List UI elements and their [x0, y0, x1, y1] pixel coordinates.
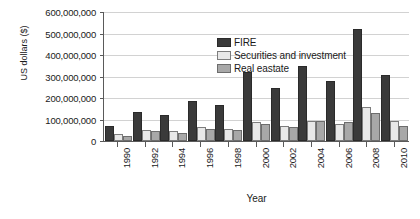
legend-item: Real eastate [217, 62, 346, 74]
bar [224, 129, 233, 141]
y-axis-tick-label: 0 [91, 136, 96, 147]
bar-group [270, 12, 298, 141]
bar [271, 88, 280, 141]
y-axis-tick-label: 300,000,000 [45, 71, 96, 82]
legend-swatch-icon [217, 51, 231, 60]
x-axis-tick-label: 1994 [176, 148, 187, 168]
bar [151, 131, 160, 141]
x-axis-tick-label: 1998 [232, 148, 243, 168]
x-axis-tick-mark [394, 142, 395, 147]
bar [371, 113, 380, 141]
x-axis-tick-mark [311, 142, 312, 147]
bar [105, 126, 114, 141]
x-axis-tick-mark [283, 142, 284, 147]
x-axis-tick-labels: 1990199219941996199820002002200420062008… [103, 148, 410, 190]
y-axis-tick-label: 600,000,000 [45, 7, 96, 18]
x-axis-tick-mark [172, 142, 173, 147]
x-axis-tick-mark [228, 142, 229, 147]
bar [188, 101, 197, 141]
bar-chart-figure: US dollars ($) 0100,000,000200,000,00030… [0, 0, 420, 219]
x-axis-tick-mark [117, 142, 118, 147]
bar [142, 130, 151, 141]
bar [289, 127, 298, 141]
bar [261, 124, 270, 141]
legend-swatch-icon [217, 38, 231, 47]
bar-group [353, 12, 381, 141]
bar [169, 131, 178, 141]
x-axis-tick-mark [145, 142, 146, 147]
bar [160, 115, 169, 141]
bar-group [133, 12, 161, 141]
x-axis-tick-label: 1996 [204, 148, 215, 168]
bar-group [160, 12, 188, 141]
bar [243, 72, 252, 141]
x-axis-tick-label: 2004 [315, 148, 326, 168]
bar-group [298, 12, 326, 141]
bar-group [325, 12, 353, 141]
legend-label: FIRE [234, 37, 256, 48]
bar-group [243, 12, 271, 141]
bar [133, 112, 142, 141]
x-axis-title: Year [103, 193, 410, 204]
legend-item: FIRE [217, 36, 346, 48]
legend-item: Securities and investment [217, 49, 346, 61]
bar [298, 66, 307, 141]
bar-group [380, 12, 408, 141]
x-axis-tick-label: 2000 [260, 148, 271, 168]
bar [197, 127, 206, 141]
x-axis-tick-label: 1990 [121, 148, 132, 168]
x-axis-tick-label: 2010 [398, 148, 409, 168]
bar [353, 29, 362, 141]
bar [252, 122, 261, 141]
bar-group [188, 12, 216, 141]
chart-legend: FIRESecurities and investmentReal eastat… [217, 36, 346, 74]
bar [326, 81, 335, 141]
legend-label: Securities and investment [234, 50, 346, 61]
bar [123, 136, 132, 141]
x-axis-tick-label: 1992 [149, 148, 160, 168]
y-axis-tick-label: 100,000,000 [45, 114, 96, 125]
bar [381, 75, 390, 142]
bar-groups [104, 12, 409, 141]
plot-area: FIRESecurities and investmentReal eastat… [103, 12, 409, 142]
bar [215, 105, 224, 141]
bar [344, 122, 353, 141]
x-axis-tick-mark [256, 142, 257, 147]
bar [316, 121, 325, 141]
x-axis-tick-label: 2006 [343, 148, 354, 168]
bar-group [215, 12, 243, 141]
x-axis-tick-label: 2002 [287, 148, 298, 168]
y-axis-tick-labels: 0100,000,000200,000,000300,000,000400,00… [12, 12, 100, 141]
bar [114, 134, 123, 141]
legend-label: Real eastate [234, 63, 289, 74]
bar [399, 126, 408, 141]
bar [335, 124, 344, 141]
x-axis-tick-mark [200, 142, 201, 147]
bar [280, 126, 289, 141]
bar-group [105, 12, 133, 141]
legend-swatch-icon [217, 64, 231, 73]
bar [178, 133, 187, 141]
bar [233, 130, 242, 141]
bar [307, 121, 316, 141]
y-axis-tick-label: 400,000,000 [45, 50, 96, 61]
y-axis-tick-label: 200,000,000 [45, 93, 96, 104]
x-axis-tick-label: 2008 [370, 148, 381, 168]
y-axis-tick-label: 500,000,000 [45, 28, 96, 39]
bar [206, 129, 215, 141]
x-axis-tick-mark [366, 142, 367, 147]
bar [390, 121, 399, 141]
x-axis-tick-mark [339, 142, 340, 147]
bar [362, 107, 371, 141]
